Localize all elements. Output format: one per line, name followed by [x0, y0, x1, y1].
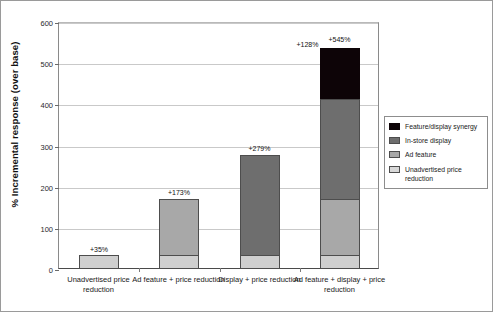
- y-tick-mark-500: [55, 64, 59, 65]
- bar-group-ad-feature-price-reduction[interactable]: +173%: [159, 197, 199, 268]
- legend-swatch-icon: [389, 151, 400, 158]
- legend-item-label: Ad feature: [405, 150, 436, 159]
- bar-segment-in-store-display[interactable]: [320, 99, 360, 200]
- y-tick-label-200: 200: [40, 183, 53, 192]
- bar-segment-ad-feature[interactable]: [320, 199, 360, 256]
- legend-swatch-icon: [389, 123, 400, 130]
- y-axis-label-text: % Incremental response (over base): [9, 41, 20, 207]
- legend-item-feature-display-synergy[interactable]: Feature/display synergy: [389, 122, 483, 131]
- bar-annotation-synergy: +128%: [297, 40, 319, 47]
- y-tick-label-300: 300: [40, 142, 53, 151]
- bar-total-label-4: +545%: [329, 36, 351, 44]
- legend-swatch-icon: [389, 166, 400, 173]
- legend-item-unadvertised-price-reduction[interactable]: Unadvertised price reduction: [389, 165, 483, 183]
- bar-total-label-1: +35%: [90, 246, 108, 254]
- y-tick-label-0: 0: [49, 266, 53, 275]
- bar-segment-unadvertised-price-reduction[interactable]: [240, 255, 280, 269]
- bar-group-unadvertised-price-reduction[interactable]: +35%: [79, 254, 119, 268]
- bar-total-label-3: +279%: [249, 145, 271, 153]
- y-tick-label-400: 400: [40, 101, 53, 110]
- chart-figure: % Incremental response (over base) 600 5…: [0, 0, 493, 312]
- x-category-label-4: Ad feature + display + price reduction: [292, 275, 387, 295]
- legend-item-label: Unadvertised price reduction: [405, 165, 483, 183]
- bar-segment-unadvertised-price-reduction[interactable]: [320, 255, 360, 269]
- gridline-600: [59, 23, 378, 24]
- y-tick-label-600: 600: [40, 19, 53, 28]
- y-tick-mark-0: [55, 270, 59, 271]
- legend-item-label: Feature/display synergy: [405, 122, 477, 131]
- bar-group-display-price-reduction[interactable]: +279%: [240, 153, 280, 268]
- chart-legend: Feature/display synergy In-store display…: [384, 116, 488, 189]
- bar-segment-ad-feature[interactable]: [159, 199, 199, 256]
- x-tick-mark-3: [300, 268, 301, 272]
- x-tick-mark-1: [139, 268, 140, 272]
- legend-item-in-store-display[interactable]: In-store display: [389, 136, 483, 145]
- legend-swatch-icon: [389, 137, 400, 144]
- y-tick-mark-200: [55, 188, 59, 189]
- y-tick-mark-300: [55, 147, 59, 148]
- plot-area: 600 500 400 300 200 100 0 +35% +173% +27…: [58, 22, 379, 269]
- bar-segment-unadvertised-price-reduction[interactable]: [159, 255, 199, 269]
- x-tick-mark-2: [220, 268, 221, 272]
- legend-item-label: In-store display: [405, 136, 451, 145]
- y-axis-label: % Incremental response (over base): [7, 1, 21, 248]
- y-tick-label-100: 100: [40, 224, 53, 233]
- y-tick-mark-600: [55, 23, 59, 24]
- bar-segment-unadvertised-price-reduction[interactable]: [79, 255, 119, 269]
- y-tick-label-500: 500: [40, 60, 53, 69]
- y-tick-mark-100: [55, 229, 59, 230]
- y-tick-mark-400: [55, 105, 59, 106]
- bar-segment-in-store-display[interactable]: [240, 155, 280, 256]
- bar-total-label-2: +173%: [168, 189, 190, 197]
- legend-item-ad-feature[interactable]: Ad feature: [389, 150, 483, 159]
- bar-segment-feature-display-synergy[interactable]: [320, 48, 360, 101]
- bar-group-ad-feature-display-price-reduction[interactable]: +545% +128%: [320, 44, 360, 268]
